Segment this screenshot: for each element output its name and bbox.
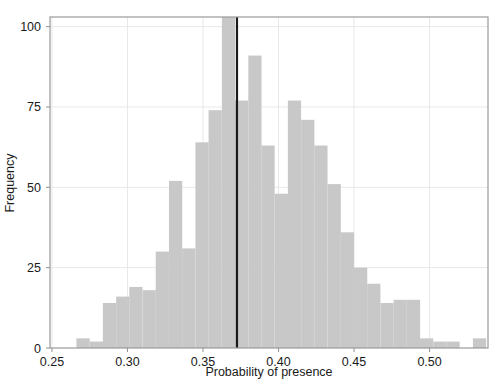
- y-tick-label: 75: [27, 100, 41, 114]
- histogram-bar: [380, 303, 393, 348]
- histogram-bar: [103, 303, 116, 348]
- histogram-bar: [261, 146, 274, 348]
- histogram-bar: [156, 252, 169, 348]
- histogram-bar: [169, 181, 182, 348]
- histogram-bar: [314, 146, 327, 348]
- histogram-bar: [288, 101, 301, 348]
- histogram-bar: [328, 184, 341, 348]
- histogram-bar: [301, 120, 314, 348]
- histogram-figure: 0.250.300.350.400.450.50 0255075100 Prob…: [0, 0, 501, 385]
- histogram-bar: [341, 232, 354, 348]
- histogram-bar: [248, 56, 261, 348]
- histogram-bar: [407, 300, 420, 348]
- x-tick-label: 0.25: [40, 355, 64, 369]
- histogram-bar: [394, 300, 407, 348]
- histogram-bar: [446, 342, 459, 348]
- histogram-bar: [433, 342, 446, 348]
- histogram-bar: [195, 142, 208, 348]
- histogram-bar: [116, 297, 129, 348]
- histogram-bar: [367, 284, 380, 348]
- histogram-bar: [275, 194, 288, 348]
- y-tick-label: 50: [27, 181, 41, 195]
- y-tick-label: 100: [20, 20, 41, 34]
- histogram-bar: [129, 287, 142, 348]
- histogram-bar: [182, 248, 195, 348]
- y-axis-title: Frequency: [3, 153, 17, 213]
- histogram-bar: [354, 268, 367, 348]
- x-tick-label: 0.30: [115, 355, 139, 369]
- histogram-bar: [143, 290, 156, 348]
- x-tick-label: 0.50: [417, 355, 441, 369]
- histogram-bar: [90, 342, 103, 348]
- histogram-bar: [76, 338, 89, 348]
- histogram-bar: [209, 110, 222, 348]
- y-tick-label: 25: [27, 261, 41, 275]
- y-tick-label: 0: [34, 342, 41, 356]
- x-axis-title: Probability of presence: [205, 365, 332, 379]
- x-tick-label: 0.45: [342, 355, 366, 369]
- histogram-chart: 0.250.300.350.400.450.50 0255075100 Prob…: [0, 0, 501, 385]
- histogram-bar: [222, 17, 235, 348]
- histogram-bar: [420, 338, 433, 348]
- histogram-bar: [473, 338, 486, 348]
